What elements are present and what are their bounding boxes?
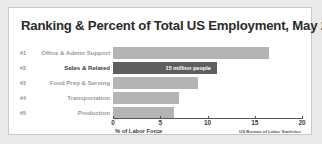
x-axis-line (113, 118, 302, 119)
bar-category-label: Office & Admin Support (31, 46, 110, 60)
bar-category-label: Production (31, 106, 110, 120)
x-axis-tick-label: 0 (103, 119, 123, 126)
bar (113, 77, 198, 89)
bar-row: #3Food Prep & Serving (9, 76, 313, 90)
bar-annotation: 15 million people (166, 62, 211, 74)
bar (113, 92, 179, 104)
bar-category-label: Transportation (31, 91, 110, 105)
bar-category-label: Food Prep & Serving (31, 76, 110, 90)
plot-area: #1Office & Admin Support#2Sales & Relate… (9, 8, 313, 136)
bar-row: #2Sales & Related15 million people (9, 61, 313, 75)
source-attribution: US Bureau of Labor Statistics (239, 129, 301, 134)
x-axis-tick-label: 5 (150, 119, 170, 126)
bar-row: #4Transportation (9, 91, 313, 105)
x-axis-tick-label: 15 (245, 119, 265, 126)
bar-row: #1Office & Admin Support (9, 46, 313, 60)
bar-category-label: Sales & Related (31, 61, 110, 75)
x-axis-tick-label: 10 (198, 119, 218, 126)
chart-screenshot: Ranking & Percent of Total US Employment… (0, 0, 322, 144)
x-axis-title: % of Labor Force (115, 128, 162, 134)
chart-panel: Ranking & Percent of Total US Employment… (8, 7, 312, 135)
x-axis-tick-label: 20 (292, 119, 312, 126)
bar: 15 million people (113, 62, 217, 74)
bar (113, 47, 269, 59)
